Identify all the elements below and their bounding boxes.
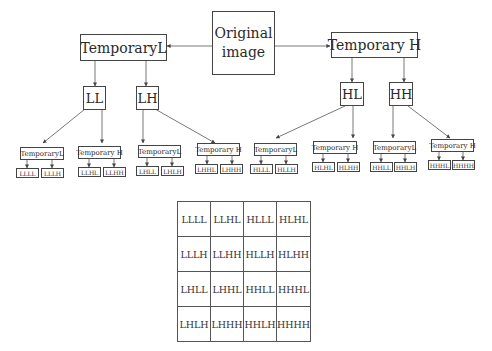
leaf-label: LLHH xyxy=(105,169,123,176)
temporary-l-label: TemporaryL xyxy=(80,40,166,56)
ll-node: LL xyxy=(83,86,106,110)
hh-temporary-h-label: Temporary H xyxy=(429,142,476,150)
grid-row: LHLL LHHL HHLL HHHL xyxy=(178,272,311,307)
hh-label: HH xyxy=(390,87,413,102)
ll-temporary-l-node: TemporaryL xyxy=(20,147,64,160)
hl-label: HL xyxy=(342,87,362,102)
leaf-label: LHLH xyxy=(163,168,181,175)
grid-cell: HLHH xyxy=(277,237,311,272)
leaf-node: LLLL xyxy=(16,168,39,178)
original-image-label-line2: image xyxy=(222,43,265,62)
grid-cell: LLLH xyxy=(178,237,211,272)
temporary-h-node: Temporary H xyxy=(331,32,418,58)
grid-cell: HLHL xyxy=(277,202,311,237)
hh-temporary-h-node: Temporary H xyxy=(431,139,474,152)
hl-temporary-h-label: Temporary H xyxy=(312,144,359,152)
leaf-node: LLLH xyxy=(41,168,64,178)
ll-temporary-h-label: Temporary H xyxy=(76,149,123,157)
grid-cell: LHLL xyxy=(178,272,211,307)
leaf-node: LHHL xyxy=(195,164,218,174)
grid-row: LHLH LHHH HHLH HHHH xyxy=(178,307,311,342)
temporary-l-node: TemporaryL xyxy=(80,34,167,61)
grid-row: LLLH LLHH HLLH HLHH xyxy=(178,237,311,272)
grid-cell: HHLH xyxy=(244,307,277,342)
leaf-label: HLLL xyxy=(253,166,270,173)
ll-temporary-h-node: Temporary H xyxy=(78,146,121,159)
leaf-label: HHHL xyxy=(430,162,450,169)
leaf-node: HHHL xyxy=(428,160,451,170)
leaf-label: HHHH xyxy=(453,162,474,169)
leaf-node: LLHL xyxy=(78,167,101,177)
leaf-node: LHHH xyxy=(220,164,243,174)
leaf-label: LLLH xyxy=(44,170,61,177)
hh-node: HH xyxy=(389,82,413,106)
subband-grid: LLLL LLHL HLLL HLHL LLLH LLHH HLLH HLHH … xyxy=(177,201,311,342)
grid-cell: LHHL xyxy=(211,272,244,307)
leaf-node: HHLL xyxy=(370,162,393,172)
ll-temporary-l-label: TemporaryL xyxy=(20,150,63,158)
leaf-label: HLLH xyxy=(277,166,295,173)
lh-temporary-l-node: TemporaryL xyxy=(138,145,181,158)
temporary-h-label: Temporary H xyxy=(328,37,422,53)
grid-cell: LLLL xyxy=(178,202,211,237)
ll-label: LL xyxy=(86,91,103,106)
grid-cell: LLHL xyxy=(211,202,244,237)
leaf-label: LLHL xyxy=(81,169,98,176)
grid-cell: LHHH xyxy=(211,307,244,342)
lh-temporary-h-node: Temporary H xyxy=(197,143,240,156)
lh-node: LH xyxy=(136,86,159,110)
leaf-label: LHHL xyxy=(197,166,215,173)
leaf-label: LLLL xyxy=(20,170,36,177)
grid-cell: HHHL xyxy=(277,272,311,307)
original-image-node: Original image xyxy=(212,11,275,75)
lh-label: LH xyxy=(138,91,158,106)
grid-cell: HLLH xyxy=(244,237,277,272)
leaf-label: LHLL xyxy=(139,168,156,175)
leaf-node: HHHH xyxy=(452,160,475,170)
leaf-node: LHLL xyxy=(136,166,159,176)
leaf-node: LHLH xyxy=(161,166,184,176)
leaf-label: LHHH xyxy=(222,166,242,173)
leaf-node: HLLH xyxy=(275,164,298,174)
leaf-label: HLHH xyxy=(339,164,359,171)
leaf-label: HLHL xyxy=(314,164,332,171)
hh-temporary-l-label: TemporaryL xyxy=(373,144,416,152)
leaf-node: HHLH xyxy=(394,162,417,172)
grid-cell: LLHH xyxy=(211,237,244,272)
leaf-node: HLHL xyxy=(312,162,335,172)
leaf-node: LLHH xyxy=(103,167,126,177)
hl-node: HL xyxy=(340,82,364,106)
hh-temporary-l-node: TemporaryL xyxy=(373,141,416,154)
hl-temporary-l-node: TemporaryL xyxy=(254,143,297,156)
leaf-node: HLHH xyxy=(337,162,360,172)
lh-temporary-h-label: Temporary H xyxy=(195,146,242,154)
grid-row: LLLL LLHL HLLL HLHL xyxy=(178,202,311,237)
grid-cell: HLLL xyxy=(244,202,277,237)
grid-cell: LHLH xyxy=(178,307,211,342)
hl-temporary-l-label: TemporaryL xyxy=(254,146,297,154)
original-image-label-line1: Original xyxy=(215,24,273,43)
lh-temporary-l-label: TemporaryL xyxy=(138,148,181,156)
leaf-label: HHLH xyxy=(396,164,416,171)
leaf-node: HLLL xyxy=(250,164,273,174)
grid-cell: HHHH xyxy=(277,307,311,342)
hl-temporary-h-node: Temporary H xyxy=(313,141,357,154)
leaf-label: HHLL xyxy=(372,164,390,171)
grid-cell: HHLL xyxy=(244,272,277,307)
